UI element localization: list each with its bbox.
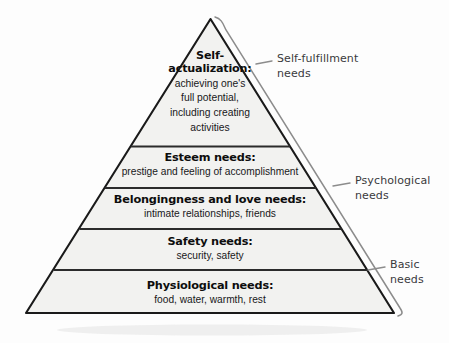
tick-psychological bbox=[333, 183, 350, 186]
annotation-psychological-line1: Psychological bbox=[355, 174, 430, 189]
pyramid-shadow bbox=[57, 325, 367, 336]
annotation-basic-line2: needs bbox=[390, 273, 424, 288]
annotation-self-fulfillment-line1: Self-fulfillment bbox=[277, 52, 358, 67]
annotation-psychological-line2: needs bbox=[355, 189, 430, 204]
pyramid-graphic bbox=[0, 0, 449, 343]
annotation-self-fulfillment-line2: needs bbox=[277, 67, 358, 82]
tick-self-fulfillment bbox=[256, 61, 272, 64]
annotation-psychological-needs: Psychological needs bbox=[355, 174, 430, 203]
annotation-basic-needs: Basic needs bbox=[390, 258, 424, 287]
maslow-hierarchy-diagram: Self- actualization: achieving one's ful… bbox=[0, 0, 449, 343]
annotation-self-fulfillment-needs: Self-fulfillment needs bbox=[277, 52, 358, 81]
annotation-basic-line1: Basic bbox=[390, 258, 424, 273]
